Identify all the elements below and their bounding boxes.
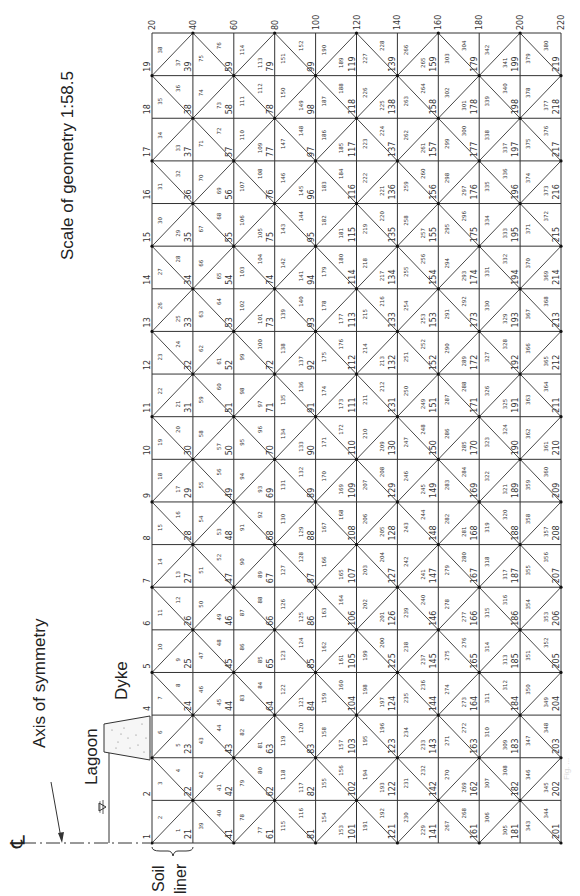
element-number: 186 [321, 130, 327, 141]
node-number: 75 [266, 232, 275, 242]
element-number: 298 [444, 172, 450, 183]
element-number: 295 [444, 223, 450, 234]
node-number: 43 [225, 744, 234, 754]
node-number: 38 [184, 104, 193, 114]
mesh-node-dot [232, 245, 235, 248]
element-number: 48 [216, 639, 222, 646]
node-number: 99 [307, 61, 316, 71]
element-number: 196 [379, 722, 385, 733]
element-number: 188 [338, 83, 344, 94]
element-number: 193 [379, 782, 385, 793]
node-number: 164 [470, 696, 479, 711]
element-number: 95 [239, 438, 245, 445]
node-number: 161 [470, 824, 479, 839]
element-number: 119 [280, 735, 286, 746]
element-number: 82 [239, 729, 245, 736]
element-number: 84 [257, 681, 263, 688]
node-number: 108 [348, 525, 357, 540]
element-number: 144 [298, 211, 304, 222]
mesh-node-dot [273, 543, 276, 546]
node-number: 216 [552, 184, 561, 199]
element-number: 283 [444, 479, 450, 490]
mesh-node-dot [191, 372, 194, 375]
element-number: 243 [403, 522, 409, 533]
node-number: 69 [266, 488, 275, 498]
element-number: 116 [298, 807, 304, 818]
element-number: 246 [403, 471, 409, 482]
mesh-node-dot [478, 841, 481, 844]
node-number: 84 [307, 701, 316, 711]
node-number: 45 [225, 658, 234, 668]
element-number: 374 [525, 172, 531, 183]
node-number: 21 [184, 829, 193, 839]
element-number: 378 [525, 87, 531, 98]
element-number: 202 [362, 599, 368, 610]
element-number: 68 [216, 212, 222, 219]
mesh-node-dot [559, 330, 562, 333]
element-number: 285 [461, 441, 467, 452]
node-number: 97 [307, 147, 316, 157]
element-number: 317 [502, 569, 508, 580]
element-number: 162 [321, 642, 327, 653]
mesh-node-dot [478, 671, 481, 674]
element-number: 287 [444, 394, 450, 405]
element-number: 17 [175, 485, 181, 492]
mesh-node-dot [396, 74, 399, 77]
node-number: 35 [184, 232, 193, 242]
mesh-node-dot [314, 756, 317, 759]
element-number: 357 [543, 526, 549, 537]
node-number: 110 [348, 440, 357, 455]
node-number: 176 [470, 184, 479, 199]
lagoon-label: Lagoon [82, 728, 102, 785]
node-number: 155 [429, 227, 438, 242]
element-number: 179 [321, 266, 327, 277]
mesh-node-dot [191, 799, 194, 802]
mesh-node-dot [396, 415, 399, 418]
node-number: 112 [348, 355, 357, 370]
node-number: 181 [511, 824, 520, 839]
node-number: 190 [511, 440, 520, 455]
element-number: 137 [298, 356, 304, 367]
element-number: 299 [444, 138, 450, 149]
element-number: 242 [403, 556, 409, 567]
element-number: 290 [444, 343, 450, 354]
node-number: 193 [511, 312, 520, 327]
element-number: 107 [239, 181, 245, 192]
node-number: 36 [184, 189, 193, 199]
mesh-node-dot [437, 117, 440, 120]
node-number: 133 [388, 312, 397, 327]
mesh-node-dot [559, 415, 562, 418]
element-number: 375 [525, 138, 531, 149]
element-number: 167 [321, 522, 327, 533]
node-number: 139 [388, 56, 397, 71]
node-number: 79 [266, 61, 275, 71]
element-number: 256 [420, 253, 426, 264]
node-number: 116 [348, 184, 357, 199]
node-number: 213 [552, 312, 561, 327]
node-number: 17 [143, 147, 152, 157]
element-number: 97 [257, 400, 263, 407]
node-number: 12 [143, 360, 152, 370]
element-number: 278 [444, 599, 450, 610]
element-number: 331 [484, 266, 490, 277]
element-number: 183 [321, 181, 327, 192]
element-number: 160 [338, 680, 344, 691]
element-number: 380 [543, 40, 549, 51]
element-number: 178 [321, 300, 327, 311]
mesh-node-dot [273, 628, 276, 631]
element-number: 224 [379, 125, 385, 136]
element-number: 206 [362, 513, 368, 524]
element-number: 163 [321, 607, 327, 618]
node-number: 87 [307, 573, 316, 583]
element-number: 176 [338, 338, 344, 349]
element-number: 343 [525, 820, 531, 831]
node-number: 131 [388, 397, 397, 412]
element-number: 230 [403, 812, 409, 823]
element-number: 231 [403, 778, 409, 789]
element-number: 9 [175, 657, 181, 661]
element-number: 218 [362, 257, 368, 268]
node-number: 50 [225, 445, 234, 455]
node-number: 59 [225, 61, 234, 71]
element-number: 53 [216, 528, 222, 535]
element-number: 148 [298, 125, 304, 136]
